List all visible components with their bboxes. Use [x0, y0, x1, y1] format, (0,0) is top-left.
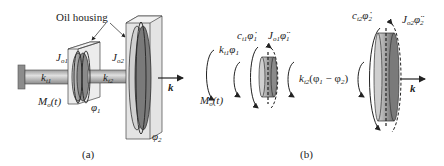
J-o2-label: Jo2: [112, 52, 124, 65]
torsional-system-diagram: [0, 0, 444, 166]
Mo-t-label: Mo(t): [38, 96, 61, 109]
k-t2-arrow-left: [288, 62, 294, 97]
J-o1-phiddot1-label: Jo1φ̈1: [268, 30, 289, 43]
c-t2-phidot2-label: ct2φ̇2: [352, 10, 372, 23]
k-unit-vector-a: k: [168, 82, 174, 93]
Mo-t-label-b: Mo(t): [200, 95, 223, 108]
fixed-wall: [18, 65, 25, 89]
moment-Mo-arrow: [207, 50, 215, 100]
c-t1-arrow: [251, 47, 259, 108]
caption-b: (b): [300, 148, 313, 160]
J-o1-label: Jo1: [56, 52, 68, 65]
caption-a: (a): [82, 148, 94, 160]
k-t1-label: kt1: [41, 72, 51, 85]
k-t1-phi1-label: kt1φ1: [219, 44, 239, 57]
k-t2-arrow-right: [358, 62, 364, 97]
c-t1-phidot1-label: ct1φ̇1: [237, 30, 257, 43]
k-t1-arrow: [234, 62, 240, 97]
k-unit-vector-b: k: [410, 83, 416, 94]
oil-housing-label: Oil housing: [56, 12, 108, 23]
phi2-label: φ2: [152, 131, 162, 144]
phi1-label: φ1: [91, 102, 101, 115]
k-t2-diff-label: kt2(φ1 − φ2): [299, 73, 348, 86]
J-o2-phiddot2-label: Jo2φ̈2: [402, 14, 423, 27]
k-t2-label: kt2: [103, 72, 113, 85]
